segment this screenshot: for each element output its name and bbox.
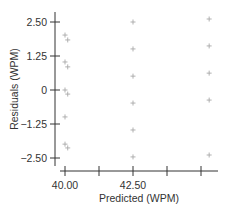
data-point-plus-marker (131, 127, 136, 132)
data-point-plus-marker (63, 88, 68, 93)
y-axis-label: Residuals (WPM) (8, 48, 20, 130)
data-point-plus-marker (131, 20, 136, 25)
x-axis-label: Predicted (WPM) (99, 192, 179, 204)
y-tick-label: 2.50 (27, 16, 48, 28)
residual-scatter-plot: 2.501.250−1.25−2.50 Residuals (WPM) 40.0… (0, 0, 227, 210)
y-axis: 2.501.250−1.25−2.50 Residuals (WPM) (8, 12, 60, 166)
y-tick-label: −1.25 (20, 118, 47, 130)
data-point-plus-marker (131, 154, 136, 159)
y-ticks: 2.501.250−1.25−2.50 (20, 16, 60, 164)
x-ticks: 40.0042.50 (52, 166, 201, 191)
data-point-plus-marker (131, 101, 136, 106)
y-tick-label: 1.25 (27, 50, 48, 62)
data-point-plus-marker (63, 142, 68, 147)
data-point-plus-marker (207, 153, 212, 158)
data-point-plus-marker (63, 33, 68, 38)
data-point-plus-marker (207, 71, 212, 76)
data-point-plus-marker (65, 64, 70, 69)
data-point-plus-marker (65, 92, 70, 97)
x-axis: 40.0042.50 Predicted (WPM) (52, 166, 218, 204)
data-point-plus-marker (65, 145, 70, 150)
data-point-plus-marker (131, 74, 136, 79)
y-tick-label: −2.50 (20, 152, 47, 164)
x-tick-label: 40.00 (52, 179, 78, 191)
data-point-plus-marker (207, 98, 212, 103)
data-point-plus-marker (63, 114, 68, 119)
data-point-plus-marker (207, 17, 212, 22)
x-tick-label: 42.50 (120, 179, 146, 191)
data-point-plus-marker (207, 43, 212, 48)
data-point-plus-marker (131, 46, 136, 51)
data-point-plus-marker (63, 59, 68, 64)
data-points (63, 17, 212, 160)
data-point-plus-marker (65, 37, 70, 42)
y-tick-label: 0 (41, 84, 47, 96)
